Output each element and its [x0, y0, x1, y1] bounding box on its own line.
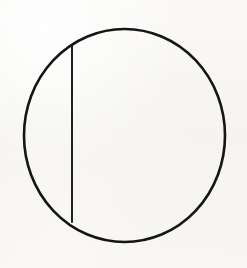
- circle-outline: [24, 29, 225, 242]
- figure-canvas: A hand-drawn circle divided by a single …: [0, 0, 247, 268]
- geometric-figure: [0, 0, 247, 268]
